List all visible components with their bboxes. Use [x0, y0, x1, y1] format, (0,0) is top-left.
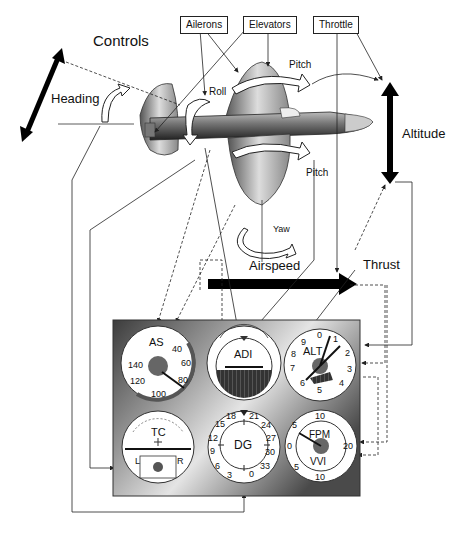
throttle-box: Throttle: [313, 16, 359, 34]
alt-tick: 6: [300, 378, 305, 388]
dg-tick: 0: [249, 469, 254, 479]
pitch-top-label: Pitch: [289, 59, 311, 70]
elevators-box: Elevators: [243, 16, 297, 34]
adi-label: ADI: [234, 348, 252, 360]
dg-tick: 27: [266, 433, 276, 443]
roll-label: Roll: [209, 86, 226, 97]
ailerons-box: Ailerons: [180, 16, 228, 34]
tc-right-label: R: [177, 456, 184, 466]
vvi-label: VVI: [310, 456, 326, 467]
as-label: AS: [149, 336, 164, 348]
alt-tick: 7: [290, 363, 295, 373]
alt-tick: 0: [317, 330, 322, 340]
dg-tick: 21: [249, 411, 259, 421]
dg-tick: 15: [215, 419, 225, 429]
controls-title: Controls: [93, 32, 149, 49]
dg-tick: 18: [226, 411, 236, 421]
airspeed-label: Airspeed: [249, 258, 300, 273]
vvi-tick: 10: [315, 411, 325, 421]
dg-tick: 30: [265, 447, 275, 457]
as-tick: 40: [172, 344, 182, 354]
dg-tick: 6: [215, 461, 220, 471]
dg-tick: 24: [261, 420, 271, 430]
vvi-tick: 5: [292, 420, 297, 430]
dg-tick: 9: [210, 446, 215, 456]
vvi-fpm-label: FPM: [309, 429, 330, 440]
vvi-tick: 10: [315, 472, 325, 482]
dg-tick: 3: [227, 470, 232, 480]
alt-tick: 9: [301, 337, 306, 347]
alt-tick: 3: [347, 364, 352, 374]
thrust-label: Thrust: [363, 257, 400, 272]
as-tick: 60: [181, 358, 191, 368]
as-tick: 100: [151, 389, 166, 399]
tc-left-label: L: [135, 456, 140, 466]
alt-tick: 4: [339, 378, 344, 388]
vvi-tick: 20: [343, 441, 353, 451]
altitude-arrow-icon: [381, 82, 399, 184]
turn-coordinator: [122, 411, 194, 483]
thrust-arrow-icon: [208, 273, 357, 295]
alt-tick: 5: [317, 385, 322, 395]
alt-tick: 1: [333, 334, 338, 344]
alt-tick: 2: [345, 348, 350, 358]
as-tick: 120: [130, 376, 145, 386]
dg-tick: 33: [260, 461, 270, 471]
yaw-label: Yaw: [273, 224, 290, 234]
altitude-label: Altitude: [402, 126, 445, 141]
pitch-bottom-label: Pitch: [306, 167, 328, 178]
vvi-tick: 5: [294, 462, 299, 472]
vvi-tick: 0: [287, 441, 292, 451]
dg-label: DG: [234, 438, 252, 452]
alt-tick: 8: [291, 349, 296, 359]
as-tick: 140: [128, 360, 143, 370]
dg-tick: 12: [208, 433, 218, 443]
heading-label: Heading: [51, 91, 99, 106]
as-tick: 80: [178, 375, 188, 385]
tc-label: TC: [151, 426, 166, 438]
